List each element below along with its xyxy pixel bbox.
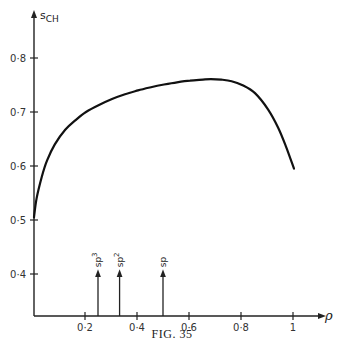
annotation-label: sp <box>158 257 168 268</box>
data-curve <box>34 79 294 217</box>
y-tick-label: 0·4 <box>10 269 26 280</box>
y-tick-label: 0·5 <box>10 215 26 226</box>
y-axis-label: sCH <box>40 9 59 24</box>
axes <box>34 14 322 316</box>
y-tick-label: 0·6 <box>10 161 26 172</box>
annotation-label: sp3 <box>91 252 103 267</box>
svg-text:sp: sp <box>158 257 168 268</box>
hybridization-arrows: sp3sp2sp <box>91 252 168 316</box>
figure-caption: FIG. 35 <box>0 327 344 342</box>
x-axis-label: ρ <box>324 308 333 323</box>
annotation-label: sp2 <box>113 252 125 267</box>
y-tick-label: 0·8 <box>10 53 26 64</box>
svg-text:sp3: sp3 <box>91 252 103 267</box>
axis-labels: sCHρ <box>40 9 333 323</box>
chart: 0·40·50·60·70·8 0·20·40·60·81 sp3sp2sp s… <box>0 0 344 362</box>
y-tick-label: 0·7 <box>10 107 26 118</box>
svg-text:sp2: sp2 <box>113 252 125 267</box>
